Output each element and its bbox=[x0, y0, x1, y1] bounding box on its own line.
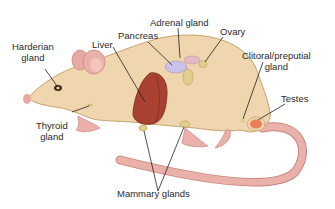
kidney-region bbox=[183, 69, 193, 85]
label-harderian-gland: Harderian gland bbox=[12, 41, 54, 63]
pancreas bbox=[165, 61, 187, 73]
clitoral-preputial-gland bbox=[241, 119, 246, 123]
rat-anatomy-diagram: Harderian gland Liver Pancreas Adrenal g… bbox=[0, 0, 335, 209]
tail bbox=[120, 127, 303, 183]
hind-foot-right bbox=[215, 130, 230, 148]
label-adrenal-gland: Adrenal gland bbox=[150, 17, 209, 28]
hind-foot-left bbox=[182, 128, 208, 147]
mammary-gland-2 bbox=[180, 121, 190, 127]
adrenal-gland bbox=[184, 56, 200, 64]
rat-illustration bbox=[0, 0, 335, 209]
label-thyroid-gland: Thyroid gland bbox=[36, 120, 68, 142]
label-testes: Testes bbox=[281, 93, 308, 104]
label-pancreas: Pancreas bbox=[118, 30, 158, 41]
mammary-gland-1 bbox=[139, 125, 147, 131]
label-liver: Liver bbox=[92, 39, 113, 50]
label-ovary: Ovary bbox=[220, 26, 245, 37]
label-mammary-glands: Mammary glands bbox=[117, 188, 190, 199]
label-clitoral-preputial-gland: Clitoral/preputial gland bbox=[242, 50, 311, 72]
testes bbox=[250, 120, 262, 129]
nose bbox=[23, 94, 31, 104]
